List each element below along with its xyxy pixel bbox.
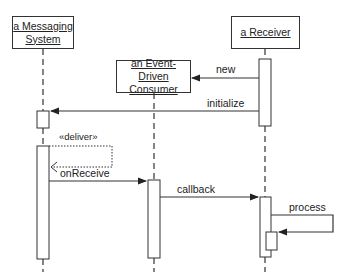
message-process-arrow (271, 215, 333, 232)
participant-label: System (25, 33, 60, 46)
activation-receiver-1 (259, 59, 271, 126)
participant-label: Consumer (129, 83, 177, 96)
message-new-label: new (216, 63, 235, 75)
activation-messaging-2 (37, 146, 49, 259)
message-callback-label: callback (177, 183, 215, 195)
activation-messaging-1 (37, 111, 49, 128)
participant-event-driven-consumer: an Event-Driven Consumer (116, 60, 191, 93)
participant-label: a Messaging (13, 20, 73, 33)
message-deliver-label: «deliver» (59, 131, 98, 143)
participant-label: a Receiver (240, 26, 290, 39)
message-onreceive-label: onReceive (60, 167, 110, 179)
participant-label: an Event-Driven (117, 57, 190, 83)
participant-messaging-system: a Messaging System (12, 16, 74, 49)
activation-receiver-nested (266, 232, 277, 250)
participant-receiver: a Receiver (231, 16, 300, 49)
activation-consumer (148, 180, 160, 258)
message-initialize-label: initialize (207, 97, 244, 109)
message-process-label: process (289, 201, 326, 213)
message-deliver-arrow (49, 146, 112, 167)
